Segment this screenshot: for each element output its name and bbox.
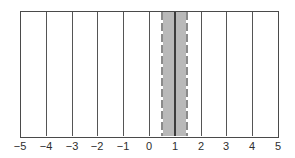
tick-label-three: 3: [216, 139, 236, 153]
tick-label-minus4: −4: [36, 139, 56, 153]
gridline-zero: [149, 12, 150, 136]
gridline-minus4: [46, 12, 47, 136]
gridline-three: [226, 12, 227, 136]
tick-label-five: 5: [268, 139, 288, 153]
gridline-one-center: [174, 12, 176, 136]
tick-label-minus1: −1: [113, 139, 133, 153]
gridline-two: [201, 12, 202, 136]
tick-label-minus5: −5: [10, 139, 30, 153]
dashed-boundary-right: [186, 12, 188, 136]
gridline-minus1: [123, 12, 124, 136]
tick-label-four: 4: [242, 139, 262, 153]
gridline-minus3: [72, 12, 73, 136]
gridline-four: [252, 12, 253, 136]
tick-label-zero: 0: [139, 139, 159, 153]
tick-label-minus3: −3: [62, 139, 82, 153]
tick-label-minus2: −2: [87, 139, 107, 153]
tick-label-one: 1: [165, 139, 185, 153]
dashed-boundary-left: [161, 12, 163, 136]
gridline-minus2: [97, 12, 98, 136]
tick-label-two: 2: [191, 139, 211, 153]
number-line-figure: −5 −4 −3 −2 −1 0 1 2 3 4 5: [0, 0, 295, 158]
